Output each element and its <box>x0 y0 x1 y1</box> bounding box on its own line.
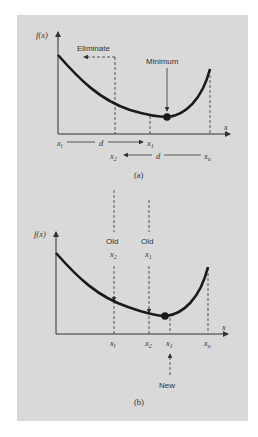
y-axis-label: f(x) <box>36 30 48 40</box>
caption-a: (a) <box>134 170 144 180</box>
caption-b: (b) <box>134 397 144 407</box>
panel-b: f(x) x Old x2 Old x1 xl x2 x1 xu New (b) <box>34 190 228 407</box>
panel-a: f(x) x Eliminate Minimum xl d x1 x2 d xu… <box>36 30 230 180</box>
tick-x2: x2 <box>144 338 152 349</box>
label-d-a2: d <box>156 151 161 161</box>
label-x2: x2 <box>109 151 117 162</box>
minimum-point <box>161 312 169 320</box>
x-axis-label: x <box>223 122 228 132</box>
old-x1-label: x1 <box>144 249 152 260</box>
y-axis-label: f(x) <box>34 229 46 239</box>
golden-section-diagram: f(x) x Eliminate Minimum xl d x1 x2 d xu… <box>0 0 258 437</box>
minimum-label: Minimum <box>146 57 179 66</box>
tick-x1: x1 <box>165 338 173 349</box>
function-curve <box>56 253 208 316</box>
old-label-2: Old <box>141 237 153 246</box>
eliminate-label: Eliminate <box>77 44 110 53</box>
label-xu: xu <box>203 151 211 162</box>
new-label: New <box>159 381 175 390</box>
label-x1: x1 <box>146 138 154 149</box>
old-x2-label: x2 <box>109 249 117 260</box>
function-curve <box>58 55 210 117</box>
old-label-1: Old <box>106 237 118 246</box>
tick-xu: xu <box>203 338 211 349</box>
label-d-a1: d <box>99 138 104 148</box>
label-xl: xl <box>56 138 63 149</box>
x-axis-label: x <box>221 322 226 332</box>
tick-xl: xl <box>109 338 116 349</box>
minimum-point <box>163 113 171 121</box>
